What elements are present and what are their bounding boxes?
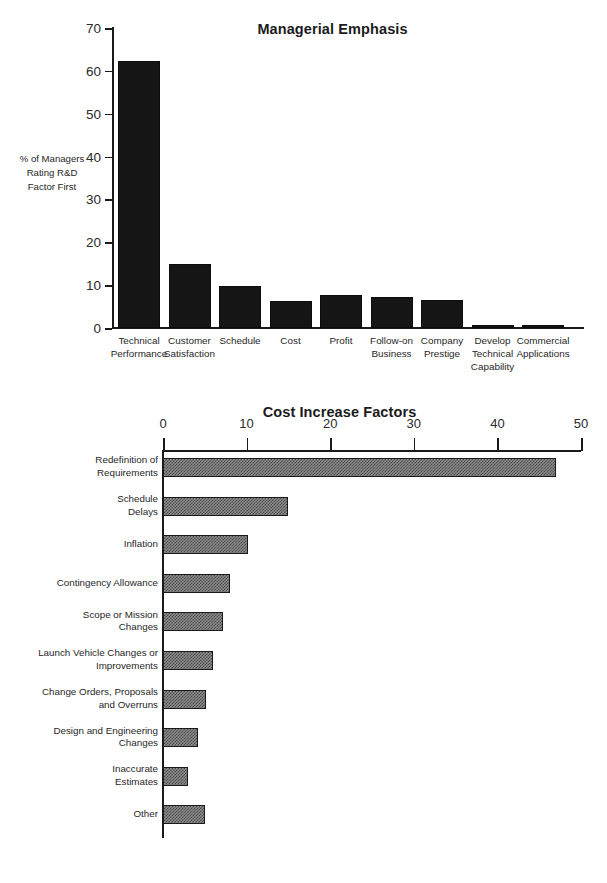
bar (270, 301, 312, 328)
category-label-line: Schedule (117, 493, 158, 506)
category-label-line: Change Orders, Proposals (42, 686, 158, 699)
category-label: Contingency Allowance (57, 577, 158, 590)
managerial-emphasis-chart: Managerial Emphasis % of Managers Rating… (0, 0, 607, 390)
y-tick-label: 60 (86, 63, 101, 78)
chart-title-cost-increase-factors: Cost Increase Factors (0, 404, 607, 420)
y-axis-title-line-2: Rating R&D (8, 166, 96, 180)
y-tick-mark (105, 328, 112, 330)
category-label: Launch Vehicle Changes orImprovements (38, 647, 158, 672)
x-tick-label: 30 (407, 416, 421, 431)
category-label-line: Estimates (112, 776, 158, 789)
y-tick-mark (105, 285, 112, 287)
y-tick-label: 50 (86, 106, 101, 121)
category-label: Inflation (124, 538, 158, 551)
bar (163, 728, 198, 747)
bar (320, 295, 362, 328)
category-label-line: Commercial (510, 334, 576, 347)
category-label: Redefinition ofRequirements (95, 454, 158, 479)
category-label-line: Other (133, 808, 158, 821)
y-tick-mark (105, 157, 112, 159)
y-tick-mark (105, 71, 112, 73)
y-tick-label: 10 (86, 278, 101, 293)
y-tick-mark (105, 28, 112, 30)
y-tick-label: 30 (86, 192, 101, 207)
bar (522, 325, 564, 328)
category-label: CommercialApplications (510, 334, 576, 360)
y-tick-label: 70 (86, 21, 101, 36)
bar (169, 264, 211, 328)
category-label-line: Improvements (38, 660, 158, 673)
category-label-line: Capability (460, 360, 526, 373)
y-axis-title-line-3: Factor First (8, 180, 96, 194)
category-label-line: Changes (53, 737, 158, 750)
category-label: InaccurateEstimates (112, 763, 158, 788)
category-label-line: Requirements (95, 467, 158, 480)
x-tick-mark-0 (163, 438, 165, 451)
bar (163, 651, 213, 670)
category-label-line: Design and Engineering (53, 725, 158, 738)
x-tick-mark-30 (414, 438, 416, 451)
category-label: ScheduleDelays (117, 493, 158, 518)
category-label: Other (133, 808, 158, 821)
y-tick-mark (105, 199, 112, 201)
category-label-line: Redefinition of (95, 454, 158, 467)
bar (118, 61, 160, 328)
x-tick-mark-40 (497, 438, 499, 451)
y-tick-label: 20 (86, 235, 101, 250)
category-label-line: Delays (117, 506, 158, 519)
category-label-line: Satisfaction (157, 347, 223, 360)
category-label: Change Orders, Proposalsand Overruns (42, 686, 158, 711)
bar (163, 767, 188, 786)
category-label-line: Changes (83, 621, 158, 634)
category-label-line: Inaccurate (112, 763, 158, 776)
plot-area: 010203040506070 (112, 28, 582, 328)
x-tick-label: 10 (239, 416, 253, 431)
bar (163, 690, 206, 709)
y-axis-title-line-1: % of Managers (8, 152, 96, 166)
bar (472, 325, 514, 328)
y-tick-mark (105, 242, 112, 244)
x-tick-label: 0 (159, 416, 166, 431)
category-label: Scope or MissionChanges (83, 609, 158, 634)
bar (163, 535, 248, 554)
category-label-line: Contingency Allowance (57, 577, 158, 590)
bar (421, 300, 463, 328)
x-tick-label: 20 (323, 416, 337, 431)
x-tick-mark-10 (247, 438, 249, 451)
bar (163, 458, 556, 477)
bar (163, 612, 223, 631)
x-tick-mark-20 (330, 438, 332, 451)
x-tick-label: 40 (490, 416, 504, 431)
x-tick-mark-50 (581, 438, 583, 451)
bar (219, 286, 261, 328)
bar (163, 497, 288, 516)
bar (371, 297, 413, 328)
bar (163, 574, 230, 593)
bar (163, 805, 205, 824)
category-label-line: Applications (510, 347, 576, 360)
category-label-line: and Overruns (42, 699, 158, 712)
x-axis-line (162, 450, 581, 452)
category-label-line: Inflation (124, 538, 158, 551)
category-label: Design and EngineeringChanges (53, 725, 158, 750)
category-label-line: Scope or Mission (83, 609, 158, 622)
y-tick-label: 0 (93, 321, 101, 336)
y-tick-mark (105, 114, 112, 116)
category-label-line: Launch Vehicle Changes or (38, 647, 158, 660)
x-tick-label: 50 (574, 416, 588, 431)
y-axis-title: % of Managers Rating R&D Factor First (8, 152, 96, 194)
y-tick-label: 40 (86, 149, 101, 164)
cost-increase-factors-chart: Cost Increase Factors 01020304050 Redefi… (0, 390, 607, 883)
